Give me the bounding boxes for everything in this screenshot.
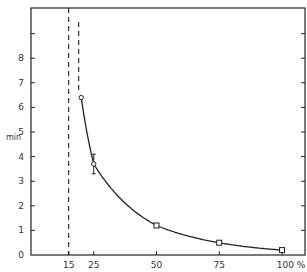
fitted-curve <box>81 98 282 251</box>
x-tick-label: 25 <box>88 260 99 270</box>
x-tick-label: 100 % <box>277 260 306 270</box>
y-tick-label: 7 <box>18 78 24 88</box>
y-tick-label: 8 <box>18 53 24 63</box>
data-curve <box>81 98 282 251</box>
x-axis-ticks: 15255075100 % <box>63 251 306 270</box>
y-axis-ticks: 012345678 <box>18 34 305 260</box>
data-points <box>79 95 285 252</box>
y-tick-label: 0 <box>18 250 24 260</box>
square-marker <box>280 248 285 253</box>
chart: 012345678 15255075100 % min <box>0 0 307 272</box>
square-marker <box>217 240 222 245</box>
plot-frame <box>31 8 305 255</box>
square-marker <box>154 223 159 228</box>
y-tick-label: 4 <box>18 152 24 162</box>
x-tick-label: 75 <box>214 260 225 270</box>
x-tick-label: 15 <box>63 260 74 270</box>
circle-marker <box>92 162 96 166</box>
x-tick-label: 50 <box>151 260 163 270</box>
annotations <box>69 8 79 255</box>
circle-marker <box>79 95 83 99</box>
y-tick-label: 3 <box>18 176 24 186</box>
y-tick-label: 1 <box>18 225 24 235</box>
y-tick-label: 6 <box>18 102 24 112</box>
plot-border <box>31 8 305 255</box>
y-axis-label: min <box>6 133 21 142</box>
y-tick-label: 2 <box>18 201 24 211</box>
